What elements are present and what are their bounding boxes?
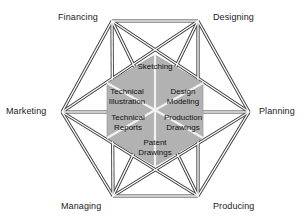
outer-label-producing: Producing [213, 201, 254, 211]
sector-line: Technical [101, 113, 155, 123]
sector-label-design-modeling: Design Modeling [158, 87, 208, 106]
sector-label-sketching: Sketching [120, 62, 190, 72]
outer-label-marketing: Marketing [6, 106, 46, 116]
outer-label-managing: Managing [61, 201, 101, 211]
sector-label-technical-reports: Technical Reports [101, 113, 155, 132]
sector-line: Illustration [99, 97, 155, 107]
sector-line: Reports [101, 123, 155, 133]
outer-label-designing: Designing [213, 12, 254, 22]
hexagon-diagram: Financing Designing Planning Producing M… [0, 0, 307, 223]
sector-label-production-drawings: Production Drawings [155, 113, 211, 132]
sector-line: Drawings [155, 123, 211, 133]
outer-label-financing: Financing [58, 12, 98, 22]
sector-line: Patent [122, 138, 188, 148]
sector-line: Modeling [158, 97, 208, 107]
sector-line: Production [155, 113, 211, 123]
sector-label-patent-drawings: Patent Drawings [122, 138, 188, 157]
sector-line: Technical [99, 87, 155, 97]
outer-label-planning: Planning [259, 106, 295, 116]
sector-label-technical-illustration: Technical Illustration [99, 87, 155, 106]
sector-line: Design [158, 87, 208, 97]
sector-line: Drawings [122, 148, 188, 158]
sector-line: Sketching [120, 62, 190, 72]
